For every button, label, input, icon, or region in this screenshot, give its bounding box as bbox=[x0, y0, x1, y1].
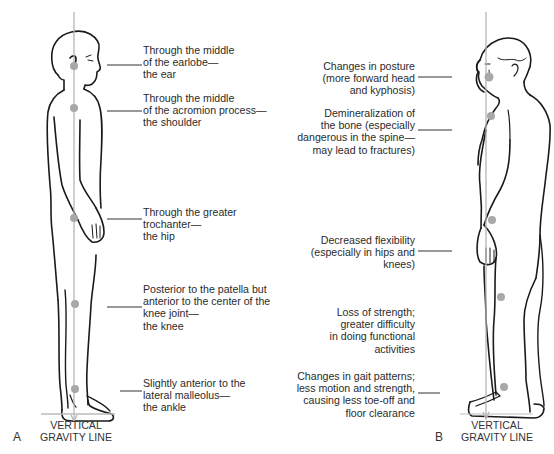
leader-lines-a bbox=[107, 65, 142, 391]
label-a-knee: Posterior to the patella but anterior to… bbox=[143, 283, 270, 332]
caption-b: VERTICAL GRAVITY LINE bbox=[455, 419, 539, 443]
caption-a-line1: VERTICAL bbox=[36, 419, 116, 431]
label-a-shoulder: Through the middle of the acromion proce… bbox=[143, 92, 267, 129]
label-a-ankle: Slightly anterior to the lateral malleol… bbox=[143, 377, 245, 414]
panel-letter-a: A bbox=[13, 430, 21, 444]
leader-lines-b bbox=[418, 77, 452, 393]
label-a-hip: Through the greater trochanter— the hip bbox=[143, 206, 237, 243]
figure-b-older-adult bbox=[469, 38, 551, 418]
caption-b-line1: VERTICAL bbox=[455, 419, 539, 431]
panel-letter-b: B bbox=[435, 430, 443, 444]
label-b-strength: Loss of strength; greater difficulty in … bbox=[330, 306, 415, 355]
figure-a-young-adult bbox=[47, 31, 113, 421]
label-b-gait: Changes in gait patterns; less motion an… bbox=[297, 370, 415, 419]
posture-diagram-drawing bbox=[0, 0, 554, 454]
label-b-demineralization: Demineralization of the bone (especially… bbox=[297, 107, 415, 156]
label-b-flexibility: Decreased flexibility (especially in hip… bbox=[311, 234, 415, 271]
caption-b-line2: GRAVITY LINE bbox=[455, 431, 539, 443]
caption-a-line2: GRAVITY LINE bbox=[36, 431, 116, 443]
label-a-ear: Through the middle of the earlobe— the e… bbox=[143, 44, 234, 81]
label-b-posture: Changes in posture (more forward head an… bbox=[323, 60, 415, 97]
caption-a: VERTICAL GRAVITY LINE bbox=[36, 419, 116, 443]
